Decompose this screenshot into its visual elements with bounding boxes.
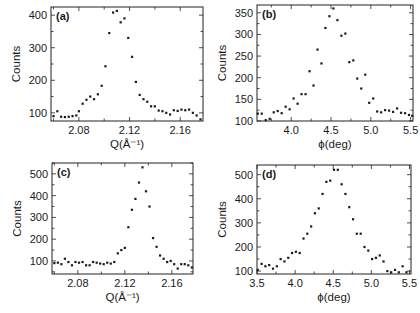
data-point	[299, 252, 301, 254]
data-point	[380, 111, 382, 113]
y-tick-label: 250	[235, 50, 253, 62]
data-point	[159, 254, 161, 256]
y-tick-label: 300	[235, 217, 253, 229]
data-point	[120, 249, 122, 251]
y-tick-label: 400	[235, 193, 253, 205]
data-point	[363, 246, 365, 248]
x-axis-label: Q(Å⁻¹)	[105, 291, 139, 303]
data-point	[191, 266, 193, 268]
data-point	[97, 93, 99, 95]
data-point	[291, 252, 293, 254]
x-tick-label: 5.5	[403, 124, 418, 136]
data-point	[104, 65, 106, 67]
data-point	[340, 35, 342, 37]
y-tick-label: 200	[29, 74, 47, 86]
data-point	[376, 110, 378, 112]
x-axis-label: ϕ(deg)	[318, 138, 351, 150]
data-point	[379, 254, 381, 256]
x-tick-label: 4.5	[326, 277, 341, 289]
data-point	[148, 205, 150, 207]
y-tick-label: 100	[235, 265, 253, 277]
data-point	[78, 262, 80, 264]
data-point	[344, 32, 346, 34]
data-point	[325, 181, 327, 183]
data-point	[106, 262, 108, 264]
data-point	[257, 113, 259, 115]
y-tick-label: 300	[30, 211, 48, 223]
data-point	[71, 115, 73, 117]
data-point	[368, 102, 370, 104]
data-point	[123, 17, 125, 19]
data-point	[170, 260, 172, 262]
data-point	[57, 262, 59, 264]
data-point	[145, 190, 147, 192]
data-point	[394, 269, 396, 271]
data-point	[127, 226, 129, 228]
data-point	[404, 112, 406, 114]
data-point	[180, 109, 182, 111]
y-axis-label: Counts	[11, 200, 23, 237]
y-tick-label: 100	[235, 115, 253, 127]
data-point	[276, 265, 278, 267]
panel-label: (a)	[56, 10, 70, 22]
data-point	[277, 110, 279, 112]
data-point	[337, 169, 339, 171]
data-point	[173, 263, 175, 265]
data-point	[173, 109, 175, 111]
panel-label: (c)	[57, 166, 71, 178]
data-point	[367, 250, 369, 252]
data-point	[108, 32, 110, 34]
data-point	[56, 110, 58, 112]
x-tick-label: 2.16	[169, 124, 190, 136]
data-point	[333, 169, 335, 171]
data-point	[396, 107, 398, 109]
data-point	[328, 15, 330, 17]
data-point	[384, 109, 386, 111]
data-point	[177, 267, 179, 269]
x-tick-label: 2.12	[119, 124, 140, 136]
data-point	[356, 233, 358, 235]
axes-frame	[257, 5, 413, 121]
x-tick-label: 2.12	[114, 277, 135, 289]
data-point	[314, 212, 316, 214]
data-point	[152, 237, 154, 239]
data-point	[264, 265, 266, 267]
data-point	[348, 61, 350, 63]
x-tick-label: 4.0	[284, 124, 299, 136]
y-tick-label: 400	[29, 9, 47, 21]
data-point	[310, 225, 312, 227]
y-tick-label: 200	[235, 241, 253, 253]
y-tick-label: 400	[30, 190, 48, 202]
x-tick-label: 5.5	[402, 277, 417, 289]
data-point	[289, 108, 291, 110]
data-point	[120, 21, 122, 23]
data-point	[110, 262, 112, 264]
data-point	[402, 265, 404, 267]
data-point	[261, 113, 263, 115]
y-axis-label: Counts	[10, 46, 22, 83]
data-point	[177, 110, 179, 112]
data-point	[67, 261, 69, 263]
x-tick-label: 4.0	[287, 277, 302, 289]
data-point	[321, 193, 323, 195]
data-point	[302, 237, 304, 239]
data-point	[304, 93, 306, 95]
data-point	[131, 209, 133, 211]
data-point	[285, 106, 287, 108]
data-point	[163, 258, 165, 260]
data-point	[103, 263, 105, 265]
data-point	[398, 271, 400, 273]
data-point	[165, 112, 167, 114]
data-point	[196, 114, 198, 116]
y-tick-label: 200	[235, 72, 253, 84]
data-point	[316, 48, 318, 50]
data-point	[329, 180, 331, 182]
y-axis-label: Counts	[216, 45, 228, 82]
data-point	[364, 74, 366, 76]
data-point	[60, 263, 62, 265]
data-point	[150, 105, 152, 107]
x-tick-label: 4.5	[323, 124, 338, 136]
x-axis-label: Q(Å⁻¹)	[110, 138, 144, 150]
figure-canvas: 2.082.122.16100200300400Q(Å⁻¹)Counts(a) …	[0, 0, 420, 313]
data-point	[400, 112, 402, 114]
